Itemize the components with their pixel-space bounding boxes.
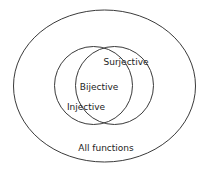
intersection-label-bijective: Bijective bbox=[80, 82, 119, 92]
universe-label-all-functions: All functions bbox=[78, 143, 134, 153]
venn-diagram: Surjective Bijective Injective All funct… bbox=[0, 0, 208, 171]
set-label-injective: Injective bbox=[67, 102, 106, 112]
set-label-surjective: Surjective bbox=[104, 57, 149, 67]
venn-diagram-canvas: Surjective Bijective Injective All funct… bbox=[0, 0, 208, 171]
